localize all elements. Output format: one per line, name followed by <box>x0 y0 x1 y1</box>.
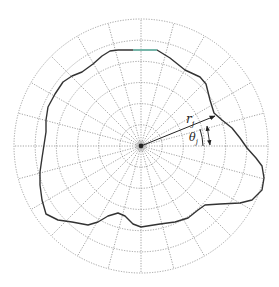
grid-spoke <box>141 146 231 236</box>
grid-spoke <box>141 36 205 146</box>
grid-spoke <box>78 146 142 256</box>
angle-increment-arrow <box>207 126 210 145</box>
radius-label: rj <box>186 112 195 128</box>
grid-spoke <box>141 146 174 269</box>
polar-contour-diagram: rj θj <box>0 0 279 287</box>
grid-spoke <box>141 146 251 210</box>
radius-vector-arrow <box>141 116 215 146</box>
grid-spoke <box>141 146 205 256</box>
grid-spoke <box>51 56 141 146</box>
angle-arc <box>200 129 203 146</box>
boundary-contour <box>40 50 264 227</box>
grid-spoke <box>141 83 251 147</box>
angle-label: θj <box>189 131 199 146</box>
grid-spoke <box>31 146 141 210</box>
grid-spoke <box>78 36 142 146</box>
